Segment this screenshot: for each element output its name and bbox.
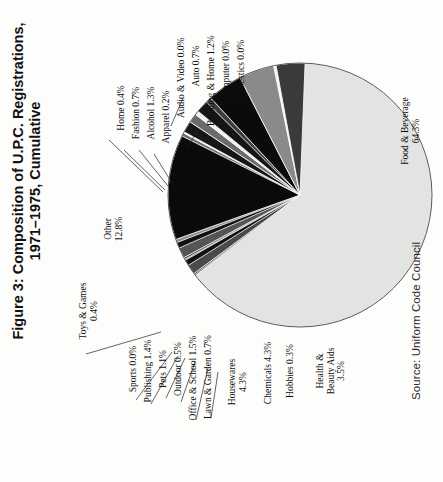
slice-label-chemicals: Chemicals 4.3% (263, 334, 274, 412)
slice-label-auto: Auto 0.7% (191, 36, 202, 96)
slice-label-home: Home 0.4% (116, 78, 127, 138)
slice-label-food-beverage: Food & Beverage 64.3% (400, 76, 421, 186)
slice-label-publishing: Publishing 1.4% (143, 336, 154, 406)
slice-label-outdoor: Outdoor 0.5% (173, 334, 184, 404)
slice-label-pets: Pets 1.1% (158, 338, 169, 400)
figure-canvas: Figure 3: Composition of U.P.C. Registra… (0, 0, 443, 482)
slice-label-sports: Sports 0.0% (128, 338, 139, 400)
slice-label-fashion: Fashion 0.7% (131, 78, 142, 148)
slice-label-health-beauty-aids: Health & Beauty Aids 3.5% (315, 334, 347, 408)
slice-label-building-home: Building & Home 1.2% (206, 36, 217, 126)
slice-label-apparel: Apparel 0.2% (161, 82, 172, 152)
slice-label-audio-video: Audio & Video 0.0% (176, 38, 187, 118)
source-note: Source: Uniform Code Council (410, 242, 422, 400)
slice-label-alcohol: Alcohol 1.3% (146, 78, 157, 148)
slice-label-lawn-garden: Lawn & Garden 0.7% (203, 330, 214, 424)
leader-line (124, 150, 165, 190)
slice-label-other: Other 12.8% (103, 200, 124, 258)
slice-label-housewares: Housewares 4.3% (227, 344, 248, 420)
slice-label-domestics: Domestics 0.0% (236, 36, 247, 106)
page-title: Figure 3: Composition of U.P.C. Registra… (10, 16, 44, 346)
slice-label-toys-games: Toys & Games 0.4% (78, 270, 99, 352)
slice-label-computer: Computer 0.0% (221, 36, 232, 106)
slice-label-office-school: Office & School 1.5% (188, 330, 199, 426)
slice-label-hobbies: Hobbies 0.3% (285, 336, 296, 406)
leader-line (139, 150, 168, 186)
